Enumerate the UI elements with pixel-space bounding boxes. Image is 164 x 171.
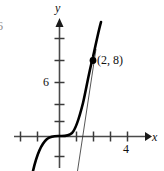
y-axis-arrowhead: [56, 18, 64, 27]
cropped-edge-numeral: 6: [0, 20, 3, 32]
x-axis-label: x: [152, 131, 157, 143]
point-marker-2-8: [90, 57, 97, 64]
cubic-curve: [33, 22, 101, 171]
x-axis-arrowhead: [145, 132, 152, 141]
point-coordinate-label: (2, 8): [97, 54, 123, 66]
y-axis-label: y: [55, 2, 60, 14]
y-tick-label-6: 6: [43, 76, 49, 88]
graph-canvas: [0, 0, 164, 171]
cubic-function-figure: y x 6 4 (2, 8) 6: [0, 0, 164, 171]
x-tick-label-4: 4: [123, 143, 129, 155]
